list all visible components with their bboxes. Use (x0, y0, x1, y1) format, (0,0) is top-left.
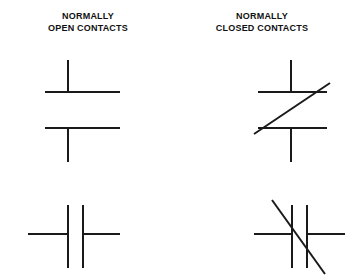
normally-open-vertical-contact (45, 60, 120, 162)
column-label-normally-closed: NORMALLY CLOSED CONTACTS (182, 10, 342, 34)
contact-symbols-diagram: NORMALLY OPEN CONTACTS NORMALLY CLOSED C… (0, 0, 346, 279)
normally-closed-horizontal-contact (254, 200, 345, 274)
symbol-layer (0, 0, 346, 279)
nc-vertical-diagonal-slash (254, 83, 330, 134)
normally-closed-vertical-contact (254, 60, 330, 162)
nc-horizontal-diagonal-slash (272, 200, 325, 274)
normally-open-horizontal-contact (28, 205, 120, 268)
column-label-normally-open: NORMALLY OPEN CONTACTS (8, 10, 168, 34)
